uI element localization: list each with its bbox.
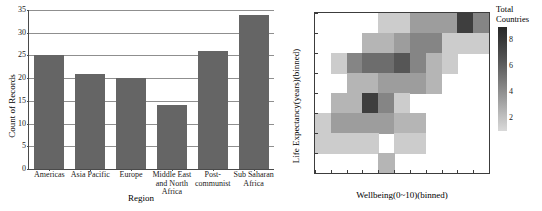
heatmap-cell [331, 113, 347, 134]
heatmap-cell [394, 33, 410, 54]
heatmap-y-tick-mark [315, 53, 318, 54]
heatmap-cell [442, 13, 458, 34]
heatmap-cell [362, 53, 378, 74]
bar-chart-y-tick-label: 30 [18, 29, 26, 37]
bar-chart-x-axis-title: Region [128, 193, 154, 203]
heatmap-cell [457, 13, 473, 34]
heatmap-cell [378, 53, 394, 74]
bar-chart-y-tick-label: 35 [18, 6, 26, 14]
heatmap-cell [362, 73, 378, 94]
bar-chart-y-tick-label: 20 [18, 74, 26, 82]
heatmap-cell [347, 53, 363, 74]
heatmap-cell [394, 73, 410, 94]
heatmap-cell [394, 53, 410, 74]
bar-chart-x-tick-label: Sub SaharanAfrica [226, 171, 282, 188]
heatmap-cell [394, 93, 410, 114]
colorbar-tick-label: 4 [509, 88, 513, 96]
colorbar-title: TotalCountries [496, 5, 542, 24]
heatmap-x-tick-mark [442, 170, 443, 173]
bar-chart-panel: Count of Records 05101520253035 Americas… [0, 0, 282, 211]
heatmap-x-tick-mark [473, 170, 474, 173]
heatmap-y-tick-mark [315, 173, 318, 174]
bar-chart-bar [239, 15, 269, 169]
bar-chart-y-tick-label: 25 [18, 51, 26, 59]
heatmap-cell [426, 73, 442, 94]
heatmap-cell [378, 93, 394, 114]
colorbar-title-line: Countries [496, 15, 542, 25]
heatmap-cell [457, 33, 473, 54]
heatmap-y-tick-mark [315, 93, 318, 94]
heatmap-x-tick-mark [394, 170, 395, 173]
heatmap-cell [426, 13, 442, 34]
bar-chart-bar [34, 55, 64, 169]
heatmap-cell [426, 33, 442, 54]
heatmap-x-tick-mark [331, 170, 332, 173]
heatmap-cell [362, 93, 378, 114]
heatmap-x-tick-mark [347, 170, 348, 173]
bar-chart-bar [75, 74, 105, 169]
heatmap-cell [331, 53, 347, 74]
bar-chart-y-tick-label: 15 [18, 97, 26, 105]
heatmap-cell [410, 33, 426, 54]
heatmap-cell [473, 13, 489, 34]
heatmap-cell [331, 133, 347, 154]
bar-chart-bar [198, 51, 228, 169]
heatmap-cell [315, 113, 331, 134]
heatmap-cell [410, 53, 426, 74]
bar-chart-y-tick-mark [27, 169, 29, 170]
heatmap-cell [442, 53, 458, 74]
heatmap-cell [347, 113, 363, 134]
heatmap-y-tick-mark [315, 13, 318, 14]
heatmap-y-tick-mark [315, 113, 318, 114]
heatmap-cell [410, 73, 426, 94]
bar-chart-y-tick-label: 5 [22, 142, 26, 150]
bar-chart-y-axis-title: Count of Records [7, 46, 17, 166]
colorbar-tick-label: 8 [509, 36, 513, 44]
bar-chart-bar [157, 105, 187, 169]
heatmap-cell [331, 93, 347, 114]
colorbar-tick-label: 2 [509, 114, 513, 122]
heatmap-panel: Life Expectancy(years)(binned) 455055606… [282, 0, 542, 211]
bar-chart-plot-area: 05101520253035 AmericasAsia PacificEurop… [28, 10, 274, 170]
heatmap-x-tick-mark [457, 170, 458, 173]
heatmap-cell [410, 13, 426, 34]
heatmap-x-tick-mark [378, 170, 379, 173]
heatmap-cell [315, 133, 331, 154]
heatmap-cell [378, 113, 394, 134]
heatmap-cell [442, 33, 458, 54]
heatmap-cell [394, 113, 410, 134]
bar-chart-bar [116, 78, 146, 169]
heatmap-cell [378, 73, 394, 94]
heatmap-cell [410, 113, 426, 134]
colorbar-gradient [498, 27, 507, 131]
heatmap-y-tick-mark [315, 153, 318, 154]
colorbar-tick-label: 6 [509, 62, 513, 70]
heatmap-x-tick-mark [426, 170, 427, 173]
heatmap-cell [362, 113, 378, 134]
heatmap-x-axis-title: Wellbeing(0~10)(binned) [356, 190, 448, 200]
heatmap-y-tick-mark [315, 33, 318, 34]
heatmap-cell [378, 13, 394, 34]
heatmap-cell [362, 33, 378, 54]
bar-chart-bars [29, 10, 274, 169]
heatmap-cell [394, 133, 410, 154]
heatmap-cell [347, 133, 363, 154]
heatmap-x-tick-mark [362, 170, 363, 173]
bar-chart-y-tick-label: 10 [18, 120, 26, 128]
heatmap-x-tick-mark [410, 170, 411, 173]
heatmap-cell [410, 133, 426, 154]
figure-container: Count of Records 05101520253035 Americas… [0, 0, 542, 211]
heatmap-cell [347, 93, 363, 114]
heatmap-y-tick-mark [315, 133, 318, 134]
heatmap-colorbar: TotalCountries 2468 [496, 5, 542, 145]
heatmap-cell [347, 73, 363, 94]
heatmap-x-tick-mark [489, 170, 490, 173]
heatmap-cell [362, 133, 378, 154]
heatmap-cell [378, 33, 394, 54]
heatmap-y-tick-mark [315, 73, 318, 74]
heatmap-plot-area: 455055606570758085 2.53.03.54.04.55.05.5… [314, 12, 490, 174]
heatmap-cell [394, 13, 410, 34]
heatmap-cell [426, 53, 442, 74]
heatmap-x-tick-mark [315, 170, 316, 173]
heatmap-cell [473, 33, 489, 54]
